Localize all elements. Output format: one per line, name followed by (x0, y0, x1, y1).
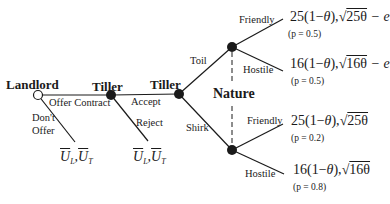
action-friendly-toil: Friendly (239, 15, 275, 26)
player-label-tiller2: Tiller (150, 78, 181, 91)
payoff-shirk-friendly: 25(1−θ),√25θ (291, 114, 368, 128)
player-label-tiller1: Tiller (92, 80, 123, 93)
nature-shirk-node (227, 145, 237, 155)
nature-toil-node (227, 42, 237, 52)
prob-toil-friendly: (p = 0.5) (288, 30, 321, 40)
payoff-toil-friendly: 25(1−θ),√25θ − e (290, 10, 390, 24)
player-label-landlord: Landlord (6, 78, 59, 91)
action-offer-contract: Offer Contract (49, 98, 110, 109)
prob-toil-hostile: (p = 0.5) (291, 77, 324, 87)
action-dont-offer-2: Offer (32, 126, 55, 137)
player-label-nature: Nature (213, 87, 255, 101)
payoff-dont-offer: UL,UT (60, 150, 93, 166)
payoff-toil-hostile: 16(1−θ),√16θ − e (290, 57, 390, 71)
prob-shirk-hostile: (p = 0.8) (293, 183, 326, 193)
action-toil: Toil (190, 56, 207, 67)
action-shirk: Shirk (186, 123, 209, 134)
action-reject: Reject (136, 118, 163, 129)
prob-shirk-friendly: (p = 0.2) (291, 134, 324, 144)
action-hostile-toil: Hostile (243, 65, 273, 76)
edge-shirk-friendly (232, 124, 283, 150)
payoff-reject: UL,UT (133, 150, 166, 166)
payoff-shirk-hostile: 16(1−θ),√16θ (293, 163, 370, 177)
edge-accept (111, 94, 179, 95)
action-accept: Accept (131, 97, 161, 108)
action-friendly-shirk: Friendly (247, 116, 283, 127)
action-dont-offer-1: Don't (32, 113, 55, 124)
action-hostile-shirk: Hostile (245, 169, 275, 180)
